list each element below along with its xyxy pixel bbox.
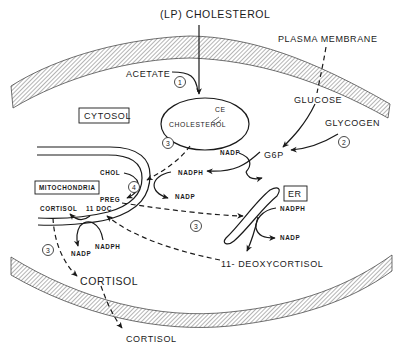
cortisol-mito-label: CORTISOL — [40, 205, 77, 212]
preg-label: PREG — [100, 196, 120, 203]
nadp-11b-label: NADP — [71, 250, 91, 257]
ce-label: CE — [215, 106, 226, 113]
svg-text:3: 3 — [194, 223, 198, 230]
svg-text:2: 2 — [342, 139, 346, 146]
chol-label: CHOL — [100, 169, 120, 176]
mitochondria-label: MITOCHONDRIA — [39, 184, 96, 191]
glycogen-to-g6p-arrow — [291, 134, 338, 150]
lp-cholesterol-label: (LP) CHOLESTEROL — [160, 8, 271, 20]
cholesterol-label: CHOLESTEROL — [169, 121, 226, 128]
g6p-label: G6P — [264, 150, 284, 160]
nadph-g6p-label: NADPH — [178, 169, 203, 176]
step-4-marker: 4 — [129, 182, 140, 193]
svg-text:3: 3 — [166, 140, 170, 147]
er-label: ER — [288, 189, 302, 199]
nadph-to-nadp-mito-arrow — [154, 172, 171, 198]
svg-text:1: 1 — [178, 79, 182, 86]
nadph-er-label: NADPH — [280, 205, 305, 212]
plasma-membrane-bottom — [11, 255, 392, 327]
nadp-mito-label: NADP — [175, 193, 195, 200]
glucose-to-g6p-arrow — [283, 104, 315, 147]
cortisol-to-cytosol-arrow — [53, 218, 77, 276]
plasma-membrane-label: PLASMA MEMBRANE — [278, 34, 378, 44]
nadph-11b-label: NADPH — [95, 243, 120, 250]
deoxycortisol-label: 11- DEOXYCORTISOL — [221, 259, 323, 269]
step-1-marker: 1 — [175, 77, 186, 88]
glycogen-label: GLYCOGEN — [325, 118, 380, 128]
er-nadph-curve — [256, 208, 276, 238]
step-3-marker-c: 3 — [43, 245, 54, 256]
glucose-label: GLUCOSE — [294, 95, 342, 105]
step-3-marker-a: 3 — [163, 138, 174, 149]
svg-text:4: 4 — [132, 184, 136, 191]
diagram-canvas: (LP) CHOLESTEROL PLASMA MEMBRANE ACETATE… — [0, 0, 396, 351]
svg-text:3: 3 — [46, 247, 50, 254]
cortisol-out-label: CORTISOL — [126, 334, 177, 344]
deoxycortisol-to-mito-arrow — [107, 216, 220, 260]
preg-to-er-arrow — [122, 203, 243, 216]
doc-label: 11 DOC — [86, 205, 112, 212]
cortisol-cytosol-label: CORTISOL — [80, 275, 138, 287]
plasma-membrane-top — [11, 36, 390, 118]
acetate-label: ACETATE — [126, 69, 170, 79]
nadp-g6p-label: NADP — [220, 149, 240, 156]
g6p-product-curve — [246, 172, 262, 179]
nadp-er-label: NADP — [280, 234, 300, 241]
step-3-marker-b: 3 — [191, 221, 202, 232]
cytosol-label: CYTOSOL — [84, 111, 131, 121]
cortisol-pathway-diagram: (LP) CHOLESTEROL PLASMA MEMBRANE ACETATE… — [0, 0, 396, 351]
g6p-nadp-curve — [239, 153, 250, 172]
step-2-marker: 2 — [339, 137, 350, 148]
